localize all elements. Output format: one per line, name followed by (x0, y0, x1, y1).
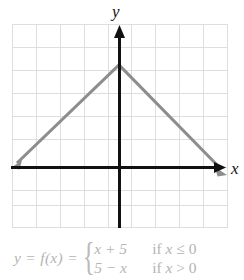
formula-case-expression: 5 − x (94, 260, 152, 276)
piecewise-function-figure: y x y = f(x) = { x + 5 if x ≤ 0 5 − x if… (0, 0, 244, 280)
x-axis-label: x (231, 160, 239, 177)
formula-case-row: x + 5 if x ≤ 0 (94, 241, 196, 257)
y-axis-arrowhead (114, 25, 125, 38)
formula-case-condition-rest: > 0 (176, 259, 196, 276)
formula-case-row: 5 − x if x > 0 (94, 260, 196, 276)
piecewise-formula: y = f(x) = { x + 5 if x ≤ 0 5 − x if x >… (14, 238, 240, 278)
axes (11, 25, 226, 228)
formula-case-condition: if x > 0 (152, 260, 196, 276)
formula-case-condition-prefix: if (152, 240, 161, 257)
formula-cases: x + 5 if x ≤ 0 5 − x if x > 0 (94, 241, 196, 275)
formula-case-condition-rest: ≤ 0 (176, 240, 196, 257)
y-axis-label: y (112, 3, 120, 20)
formula-case-condition-variable: x (165, 240, 172, 257)
formula-case-expression: x + 5 (94, 241, 152, 257)
formula-brace: { (83, 238, 95, 276)
formula-case-condition-prefix: if (152, 259, 161, 276)
formula-case-condition-variable: x (165, 259, 172, 276)
formula-left-hand-side: y = f(x) = (14, 250, 81, 266)
formula-case-condition: if x ≤ 0 (152, 241, 196, 257)
